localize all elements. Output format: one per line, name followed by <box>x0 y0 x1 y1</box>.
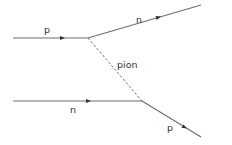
incoming-neutron-line: n <box>13 99 142 115</box>
outgoing-proton-label: p <box>167 122 173 133</box>
arrow-right-icon <box>60 36 65 40</box>
arrow-up-right-icon <box>156 16 161 20</box>
arrow-right-icon <box>86 99 91 103</box>
incoming-proton-label: p <box>44 24 50 35</box>
outgoing-proton-line: p <box>142 101 201 137</box>
pion-label: pion <box>117 59 138 70</box>
outgoing-neutron-line: n <box>88 5 201 38</box>
incoming-neutron-label: n <box>70 104 76 115</box>
incoming-proton-line: p <box>13 24 88 40</box>
pion-exchange-line: pion <box>88 38 142 101</box>
outgoing-neutron-label: n <box>136 14 142 25</box>
feynman-diagram: p n pion n p <box>0 0 232 145</box>
